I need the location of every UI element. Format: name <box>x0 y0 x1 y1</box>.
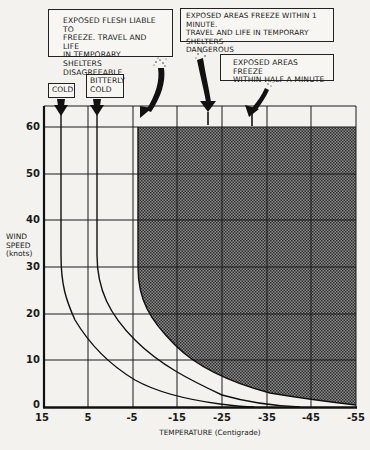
half-minute-zone-arrow-icon <box>245 80 274 126</box>
cold-label: COLD <box>48 83 75 98</box>
x-tick-neg25: -25 <box>207 412 237 423</box>
x-tick-5: 5 <box>73 412 103 423</box>
x-tick-neg55: -55 <box>341 412 370 423</box>
dangerous-zone-arrow-icon <box>195 48 216 125</box>
zone-disagreeable-callout: EXPOSED FLESH LIABLE TO FREEZE. TRAVEL A… <box>48 9 173 57</box>
y-tick-30: 30 <box>14 261 40 272</box>
x-axis-label: TEMPERATURE (Centigrade) <box>150 428 270 437</box>
y-axis-label: WIND SPEED (knots) <box>6 233 32 259</box>
y-tick-10: 10 <box>14 354 40 365</box>
disagreeable-zone-arrow-icon <box>140 56 167 119</box>
y-tick-20: 20 <box>14 308 40 319</box>
y-tick-40: 40 <box>14 214 40 225</box>
bitterly-cold-arrow-icon <box>90 99 104 116</box>
zone-dangerous-callout: EXPOSED AREAS FREEZE WITHIN 1 MINUTE. TR… <box>180 8 334 42</box>
y-tick-60: 60 <box>14 121 40 132</box>
x-tick-neg5: -5 <box>117 412 147 423</box>
y-tick-0: 0 <box>14 399 40 410</box>
shaded-danger-region <box>138 127 356 405</box>
bitterly-cold-label: BITTERLY COLD <box>86 74 124 98</box>
cold-arrow-icon <box>54 99 68 116</box>
x-tick-neg45: -45 <box>296 412 326 423</box>
x-tick-15: 15 <box>27 412 57 423</box>
wind-chill-chart: COLD BITTERLY COLD EXPOSED FLESH LIABLE … <box>0 0 370 450</box>
x-tick-neg15: -15 <box>162 412 192 423</box>
zone-half-minute-callout: EXPOSED AREAS FREEZE WITHIN HALF A MINUT… <box>220 54 334 81</box>
x-tick-neg35: -35 <box>252 412 282 423</box>
y-tick-50: 50 <box>14 168 40 179</box>
